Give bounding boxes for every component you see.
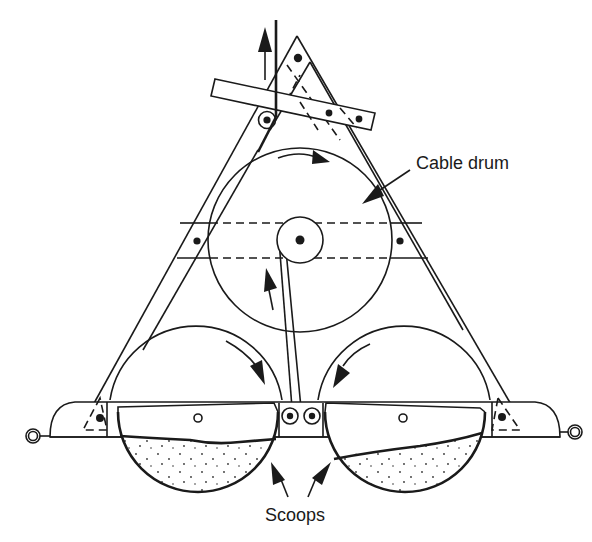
sampler-diagram: Cable drum Scoops (0, 0, 592, 542)
right-drum-rotation-arrow-icon (333, 344, 370, 388)
cable-up-arrow-icon (264, 268, 277, 310)
scoops-label: Scoops (265, 505, 325, 525)
pulley (259, 112, 276, 129)
drum-rotation-arrow-icon (278, 150, 330, 164)
lift-arrow-icon (258, 27, 272, 80)
cable-drum-callout: Cable drum (362, 153, 509, 204)
drum-hub (277, 217, 323, 263)
scoops-callout: Scoops (265, 462, 331, 525)
right-scoop-drum (318, 326, 490, 400)
right-eyelet (560, 425, 582, 439)
right-scoop (320, 403, 490, 520)
left-drum-rotation-arrow-icon (226, 341, 265, 385)
left-scoop (110, 403, 290, 520)
lever-bar (211, 79, 375, 130)
left-eyelet (26, 429, 50, 443)
cable-drum-label: Cable drum (416, 153, 509, 173)
